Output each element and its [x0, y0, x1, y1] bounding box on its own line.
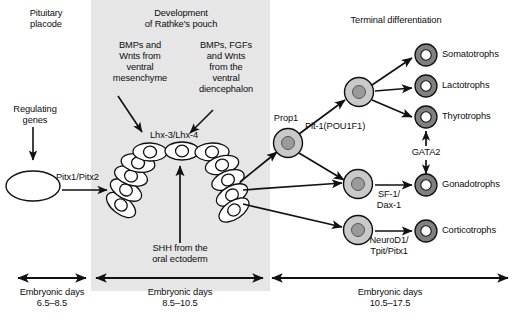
label-lhx3-lhx4: Lhx-3/Lhx-4: [150, 130, 198, 141]
section-title-rathkes-pouch: Development of Rathke's pouch: [145, 8, 217, 30]
arrow-pit1-to-lactotrophs: [375, 88, 412, 91]
gonadotrophs-cell: [415, 174, 437, 196]
cell-label-gonadotrophs: Gonadotrophs: [442, 179, 500, 190]
corticotroph-progenitor-cell: [344, 216, 373, 245]
label-gata2: GATA2: [412, 147, 441, 158]
cell-label-corticotrophs: Corticotrophs: [442, 225, 496, 236]
pit1-progenitor-cell: [345, 78, 374, 107]
arrow-pouch-to-gonadotroph-progenitor: [243, 183, 342, 190]
label-regulating-genes: Regulating genes: [13, 104, 56, 126]
gonadotroph-progenitor-cell: [344, 170, 373, 199]
label-neurod1-tpit-pitx1: NeuroD1/ Tpit/Pitx1: [370, 235, 409, 257]
label-shh-oral-ectoderm: SHH from the oral ectoderm: [152, 243, 208, 265]
prop1-progenitor-cell: [274, 129, 303, 158]
corticotrophs-cell: [415, 220, 437, 242]
arrow-prop1-to-sf1-progenitor: [299, 153, 344, 180]
arrow-pit1-to-somatotrophs: [372, 58, 412, 85]
somatotrophs-cell: [415, 44, 437, 66]
label-bmps-fgfs-wnts-diencephalon: BMPs, FGFs and Wnts from the ventral die…: [199, 40, 253, 95]
timeline-label-stage-1: Embryonic days 6.5–8.5: [20, 287, 85, 309]
rathkes-pouch-cell-arch: [102, 142, 253, 227]
section-title-terminal-differentiation: Terminal differentiation: [351, 15, 442, 26]
label-prop1: Prop1: [274, 113, 298, 124]
arrow-bmps-wnts-mesenchyme: [118, 96, 142, 132]
thyrotrophs-cell: [415, 106, 437, 128]
cell-label-thyrotrophs: Thyrotrophs: [442, 111, 491, 122]
label-pit1-pou1f1: Pit-1(POU1F1): [305, 121, 365, 132]
lactotrophs-cell: [415, 75, 437, 97]
label-pitx1-pitx2: Pitx1/Pitx2: [56, 172, 99, 183]
label-sf1-dax1: SF-1/ Dax-1: [377, 189, 401, 211]
arrow-pit1-to-thyrotrophs: [372, 100, 412, 117]
pituitary-development-diagram: Pituitary placode Development of Rathke'…: [0, 0, 518, 319]
label-bmps-wnts-ventral-mesenchyme: BMPs and Wnts from ventral mesenchyme: [113, 40, 167, 84]
arrow-pouch-to-prop1: [240, 152, 277, 182]
cell-label-somatotrophs: Somatotrophs: [442, 49, 499, 60]
pituitary-placode-cell: [6, 171, 60, 201]
diagram-vector-layer: [0, 0, 518, 319]
cell-label-lactotrophs: Lactotrophs: [442, 80, 489, 91]
timeline-label-stage-2: Embryonic days 8.5–10.5: [148, 287, 213, 309]
section-title-pituitary-placode: Pituitary placode: [30, 8, 63, 30]
timeline-label-stage-3: Embryonic days 10.5–17.5: [358, 287, 423, 309]
arrow-pouch-to-corticotroph-progenitor: [243, 204, 342, 227]
